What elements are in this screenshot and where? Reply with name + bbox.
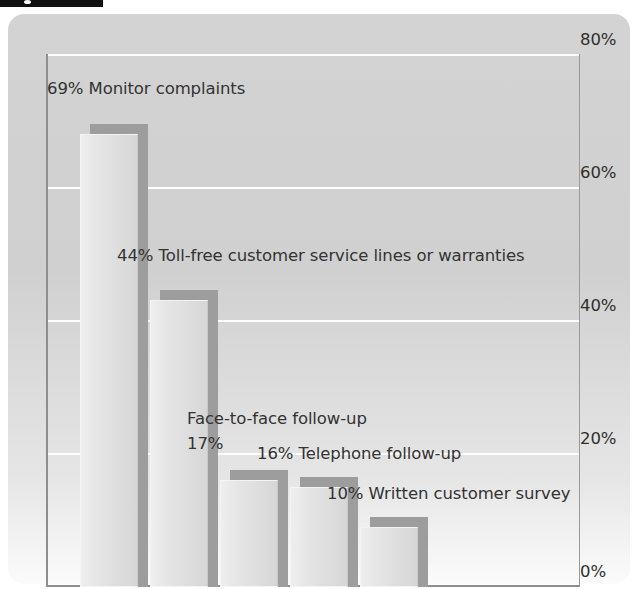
cropped-title-text xyxy=(190,0,420,5)
bar-face xyxy=(220,480,278,587)
axis-tick-40: 40% xyxy=(580,297,616,315)
data-label-monitor-complaints: 69% Monitor complaints xyxy=(47,79,245,99)
cropped-banner xyxy=(0,0,103,7)
data-label-written-customer-survey: 10% Written customer survey xyxy=(327,484,570,504)
bar-face xyxy=(360,527,418,587)
axis-tick-20: 20% xyxy=(580,430,616,448)
data-label-toll-free-customer-service: 44% Toll-free customer service lines or … xyxy=(117,246,524,266)
bar-face xyxy=(80,134,138,587)
axis-tick-0: 0% xyxy=(580,563,606,581)
plot-area xyxy=(46,54,580,587)
axis-tick-60: 60% xyxy=(580,164,616,182)
data-label-face-to-face-follow-up-value: 17% xyxy=(187,434,223,454)
data-label-telephone-follow-up: 16% Telephone follow-up xyxy=(257,444,461,464)
gridline-80 xyxy=(48,54,580,56)
bar-chart: 69% Monitor complaints 44% Toll-free cus… xyxy=(8,14,630,584)
bullet-icon xyxy=(24,0,31,4)
data-label-face-to-face-follow-up-category: Face-to-face follow-up xyxy=(187,409,367,429)
axis-tick-80: 80% xyxy=(580,31,616,49)
